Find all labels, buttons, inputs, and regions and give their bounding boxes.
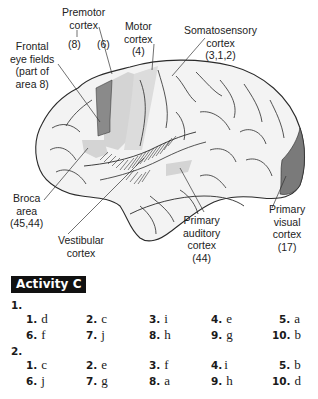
answer-item: 9.g [211,327,233,343]
answer-item: 9.h [211,373,233,389]
label-frontal-eye-fields: Frontal eye fields (part of area 8) [10,40,54,90]
answer-item: 7.j [86,327,105,343]
answer-item: 6.f [26,327,46,343]
answer-item: 5.a [279,311,300,327]
answer-item: 2.c [86,311,107,327]
section-label-2: 2. [11,345,22,357]
answer-item: 2.e [86,357,107,373]
frontal-eye-fields-region [96,80,112,136]
label-motor-cortex: Motor cortex (4) [124,20,153,58]
answer-item: 1.c [26,357,47,373]
label-premotor-cortex: Premotor cortex [62,6,105,31]
answer-item: 8.a [149,373,170,389]
label-premotor-area-6: (6) [97,38,110,51]
answer-item: 3.f [149,357,169,373]
answer-row: 6.j 7.g 8.a 9.h 10.d [0,373,318,389]
answer-item: 7.g [86,373,108,389]
answer-item: 1.d [26,311,48,327]
answer-item: 4.i [211,357,228,373]
answer-item: 3.i [149,311,168,327]
brain-diagram: Premotor cortex (8) (6) Motor cortex (4)… [0,0,318,262]
brain-outline [36,60,305,241]
label-primary-auditory-cortex: Primary auditory cortex (44) [183,214,220,264]
answer-item: 8.h [149,327,171,343]
answer-item: 6.j [26,373,45,389]
answer-item: 10.b [272,327,301,343]
activity-title: Activity C [11,276,86,293]
label-broca-area: Broca area (45,44) [10,192,43,230]
label-vestibular-cortex: Vestibular cortex [58,234,104,259]
answer-row: 1.d 2.c 3.i 4.e 5.a [0,311,318,327]
label-primary-visual-cortex: Primary visual cortex (17) [269,203,305,253]
label-premotor-area-8: (8) [68,38,81,51]
label-somatosensory-cortex: Somatosensory cortex (3,1,2) [184,24,257,62]
answer-item: 10.d [272,373,301,389]
section-label-1: 1. [11,299,22,311]
answer-row: 1.c 2.e 3.f 4.i 5.b [0,357,318,373]
answer-item: 4.e [211,311,232,327]
answer-row: 6.f 7.j 8.h 9.g 10.b [0,327,318,343]
answer-item: 5.b [279,357,301,373]
